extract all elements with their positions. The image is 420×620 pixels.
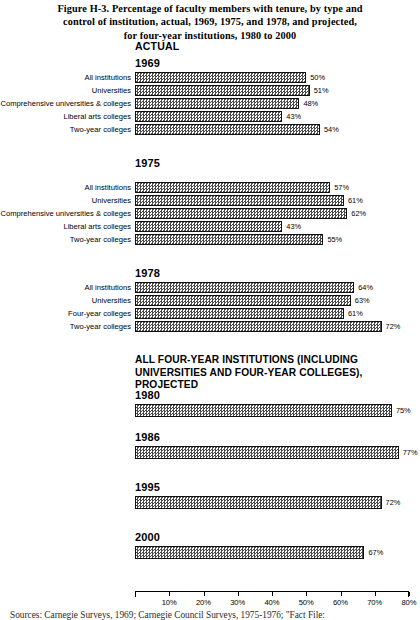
bar-value-label: 67% [368, 546, 383, 559]
source-note: Sources: Carnegie Surveys, 1969; Carnegi… [10, 610, 420, 620]
bar-row: Universities61% [0, 195, 420, 206]
axis-tick-label: 80% [394, 598, 420, 607]
bar-projected-1980 [135, 404, 392, 417]
bar-projected-1986 [135, 446, 399, 459]
bar-1978-0 [135, 282, 354, 293]
bar-row: All institutions64% [0, 282, 420, 293]
axis-tick [169, 592, 170, 596]
caption-line-1: Figure H-3. Percentage of faculty member… [8, 2, 412, 15]
bar-row: Comprehensive universities & colleges48% [0, 98, 420, 109]
bar-value-label: 63% [355, 295, 370, 306]
group-heading-1969: 1969 [135, 57, 160, 69]
bar-row: All institutions57% [0, 182, 420, 193]
section-heading-actual: ACTUAL [135, 40, 179, 52]
axis-tick [306, 592, 307, 596]
bar-row-label: Liberal arts colleges [0, 221, 131, 232]
bar-1975-4 [135, 234, 323, 245]
bar-1975-3 [135, 221, 282, 232]
bar-1975-0 [135, 182, 330, 193]
axis-tick [272, 592, 273, 596]
bar-row-label: Two-year colleges [0, 124, 131, 135]
bar-value-label: 72% [386, 321, 401, 332]
bar-row: Two-year colleges54% [0, 124, 420, 135]
bar-1969-2 [135, 98, 299, 109]
bar-value-label: 64% [358, 282, 373, 293]
bar-1969-0 [135, 72, 306, 83]
section-heading-projected: ALL FOUR-YEAR INSTITUTIONS (INCLUDING UN… [135, 354, 415, 392]
bar-row-label: Two-year colleges [0, 321, 131, 332]
bar-projected-2000 [135, 546, 364, 559]
axis-tick [238, 592, 239, 596]
bar-row-label: All institutions [0, 282, 131, 293]
bar-value-label: 48% [303, 98, 318, 109]
bar-row: Universities63% [0, 295, 420, 306]
bar-value-label: 51% [314, 85, 329, 96]
bar-1969-1 [135, 85, 310, 96]
bar-row: 67% [0, 546, 420, 559]
bar-row: All institutions50% [0, 72, 420, 83]
axis-tick-label: 50% [291, 598, 321, 607]
bar-row-label: All institutions [0, 182, 131, 193]
axis-tick [409, 592, 410, 596]
figure-caption: Figure H-3. Percentage of faculty member… [8, 2, 412, 42]
x-axis [135, 591, 409, 597]
bar-value-label: 62% [351, 208, 366, 219]
bar-row-label: All institutions [0, 72, 131, 83]
bar-value-label: 43% [286, 111, 301, 122]
group-heading-1980: 1980 [135, 389, 160, 401]
axis-tick [204, 592, 205, 596]
bar-row-label: Universities [0, 295, 131, 306]
bar-value-label: 77% [403, 446, 418, 459]
axis-tick-label: 70% [360, 598, 390, 607]
axis-tick [341, 592, 342, 596]
bar-value-label: 55% [327, 234, 342, 245]
axis-tick [375, 592, 376, 596]
axis-tick-label: 30% [223, 598, 253, 607]
bar-1975-1 [135, 195, 344, 206]
bar-1978-2 [135, 308, 344, 319]
bar-value-label: 75% [396, 404, 411, 417]
bar-row-label: Comprehensive universities & colleges [0, 98, 131, 109]
axis-tick-label: 40% [257, 598, 287, 607]
bar-row-label: Comprehensive universities & colleges [0, 208, 131, 219]
bar-value-label: 50% [310, 72, 325, 83]
axis-tick-label: 10% [154, 598, 184, 607]
axis-tick-label: 60% [326, 598, 356, 607]
bar-1978-3 [135, 321, 382, 332]
bar-1978-1 [135, 295, 351, 306]
caption-line-2: control of institution, actual, 1969, 19… [8, 15, 412, 28]
bar-row-label: Liberal arts colleges [0, 111, 131, 122]
bar-projected-1995 [135, 496, 382, 509]
bar-value-label: 57% [334, 182, 349, 193]
caption-line-3: for four-year institutions, 1980 to 2000 [8, 29, 412, 42]
bar-row-label: Universities [0, 85, 131, 96]
axis-tick-label: 20% [189, 598, 219, 607]
bar-row: Universities51% [0, 85, 420, 96]
bar-row: Liberal arts colleges43% [0, 111, 420, 122]
group-heading-1995: 1995 [135, 481, 160, 493]
bar-row: Four-year colleges61% [0, 308, 420, 319]
projected-heading-line-3: PROJECTED [135, 379, 415, 392]
bar-row: 75% [0, 404, 420, 417]
bar-value-label: 43% [286, 221, 301, 232]
bar-row-label: Two-year colleges [0, 234, 131, 245]
group-heading-1975: 1975 [135, 157, 160, 169]
bar-row-label: Four-year colleges [0, 308, 131, 319]
bar-value-label: 61% [348, 195, 363, 206]
group-heading-1986: 1986 [135, 431, 160, 443]
bar-row: 77% [0, 446, 420, 459]
bar-row-label: Universities [0, 195, 131, 206]
projected-heading-line-1: ALL FOUR-YEAR INSTITUTIONS (INCLUDING [135, 354, 415, 367]
bar-value-label: 54% [324, 124, 339, 135]
bar-1975-2 [135, 208, 347, 219]
bar-row: Two-year colleges55% [0, 234, 420, 245]
bar-row: Comprehensive universities & colleges62% [0, 208, 420, 219]
projected-heading-line-2: UNIVERSITIES AND FOUR-YEAR COLLEGES), [135, 367, 415, 380]
group-heading-1978: 1978 [135, 267, 160, 279]
bar-1969-3 [135, 111, 282, 122]
bar-1969-4 [135, 124, 320, 135]
bar-value-label: 72% [386, 496, 401, 509]
bar-row: 72% [0, 496, 420, 509]
bar-value-label: 61% [348, 308, 363, 319]
bar-row: Liberal arts colleges43% [0, 221, 420, 232]
